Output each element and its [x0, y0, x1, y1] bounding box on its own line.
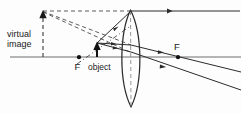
optics-ray-diagram: virtual image F F object [0, 0, 241, 114]
converging-lens [122, 10, 140, 107]
ray-diagram-canvas: virtual image F F object [0, 0, 241, 114]
virtual-image-label-line2: image [7, 39, 32, 49]
focal-point-left-dot [77, 55, 81, 59]
object-label: object [88, 62, 111, 72]
virtual-extension-upper-line [43, 12, 131, 46]
center-ray-refracted [131, 52, 241, 90]
secondary-ray-refracted-arrow [158, 50, 164, 54]
virtual-extension-lower-line [43, 12, 131, 53]
center-ray-refracted-arrow [160, 65, 167, 69]
parallel-ray-refracted-arrow [167, 8, 173, 13]
lens-vertical-axis [131, 11, 132, 106]
focal-point-right-dot [176, 55, 180, 59]
focal-point-right-label: F [174, 41, 180, 52]
virtual-image-label-line1: virtual [7, 29, 31, 39]
focal-point-left-label: F [75, 61, 81, 72]
secondary-ray-refracted [131, 45, 241, 72]
center-ray-incident-arrow [113, 46, 119, 49]
